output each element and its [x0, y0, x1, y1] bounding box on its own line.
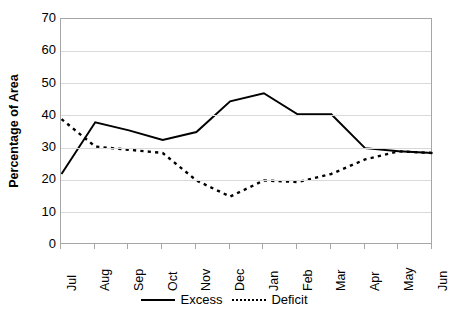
y-axis-title: Percentage of Area	[7, 74, 21, 187]
gridline	[61, 212, 431, 213]
x-axis-tick-mark	[330, 244, 331, 249]
x-axis-tick-label: Jan	[268, 251, 281, 291]
gridline	[61, 83, 431, 84]
x-axis-tick-mark	[431, 244, 432, 249]
y-axis-tick-label: 50	[22, 76, 56, 89]
y-axis-tick-labels: 010203040506070	[20, 0, 56, 318]
legend-label-excess: Excess	[180, 292, 222, 307]
x-axis-tick-mark	[397, 244, 398, 249]
y-axis-tick-label: 70	[22, 11, 56, 24]
legend-label-deficit: Deficit	[271, 292, 307, 307]
y-axis-tick-label: 0	[22, 237, 56, 250]
line-chart: Percentage of Area 010203040506070 JulAu…	[0, 0, 449, 318]
legend-item-excess: Excess	[141, 292, 222, 307]
legend-item-deficit: Deficit	[232, 292, 307, 307]
gridline	[61, 115, 431, 116]
x-axis-tick-mark	[262, 244, 263, 249]
x-axis-tick-label: Mar	[335, 251, 348, 291]
gridline	[61, 180, 431, 181]
x-axis-tick-mark	[161, 244, 162, 249]
x-axis-tick-label: Feb	[302, 251, 315, 291]
y-axis-tick-label: 60	[22, 43, 56, 56]
x-axis-tick-mark	[296, 244, 297, 249]
x-axis-tick-label: Dec	[234, 251, 247, 291]
x-axis-tick-mark	[364, 244, 365, 249]
x-axis-tick-label: Apr	[369, 251, 382, 291]
x-axis-tick-label: Jul	[66, 251, 79, 291]
legend-swatch-solid-line-icon	[141, 299, 175, 301]
x-axis-tick-label: Sep	[133, 251, 146, 291]
x-axis-tick-label: Aug	[99, 251, 112, 291]
x-axis-tick-label: Jun	[437, 251, 449, 291]
x-axis-tick-mark	[195, 244, 196, 249]
x-axis-tick-mark	[229, 244, 230, 249]
x-axis-tick-label: May	[403, 251, 416, 291]
y-axis-tick-label: 40	[22, 108, 56, 121]
y-axis-tick-label: 10	[22, 205, 56, 218]
plot-area	[60, 18, 432, 244]
x-axis-tick-label: Nov	[200, 251, 213, 291]
legend-swatch-dotted-line-icon	[232, 299, 266, 301]
series-line-deficit	[62, 119, 433, 196]
x-axis-tick-mark	[60, 244, 61, 249]
series-lines	[61, 19, 433, 245]
x-axis-tick-label: Oct	[167, 251, 180, 291]
chart-legend: Excess Deficit	[0, 292, 449, 307]
x-axis-tick-mark	[127, 244, 128, 249]
x-axis-tick-mark	[94, 244, 95, 249]
series-line-excess	[62, 93, 433, 174]
gridline	[61, 51, 431, 52]
y-axis-tick-label: 20	[22, 172, 56, 185]
gridline	[61, 148, 431, 149]
y-axis-tick-label: 30	[22, 140, 56, 153]
